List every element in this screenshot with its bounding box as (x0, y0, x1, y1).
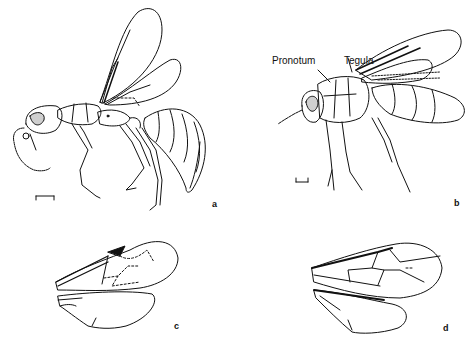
panel-label-a: a (212, 200, 217, 209)
panel-label-c: c (174, 322, 179, 331)
wings-d-drawing (312, 243, 442, 333)
figure: Pronotum Tegula a b c d (0, 0, 476, 341)
wings-c-drawing (56, 242, 178, 329)
wasp-a-drawing (13, 9, 205, 210)
panel-label-b: b (454, 199, 460, 208)
line-drawings (0, 0, 476, 341)
tegula-label: Tegula (344, 56, 373, 66)
panel-label-d: d (443, 324, 449, 333)
pronotum-label: Pronotum (272, 56, 315, 66)
